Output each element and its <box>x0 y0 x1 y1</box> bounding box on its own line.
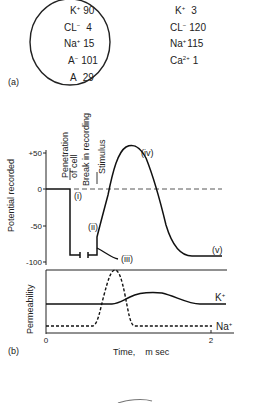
k-permeability-curve <box>46 292 226 304</box>
inside-ion-a: A29 <box>70 72 94 83</box>
annotation-of-cell: of cell <box>69 154 79 178</box>
svg-text:+50: +50 <box>28 149 42 158</box>
svg-text:(iv): (iv) <box>141 148 154 158</box>
svg-text:-100: -100 <box>26 258 43 267</box>
svg-text:0: 0 <box>38 185 43 194</box>
outside-ion-cl: CL−120 <box>170 22 206 33</box>
y-axis-label-potential: Potential recorded <box>6 159 16 232</box>
x-axis-label: Time, m sec <box>113 347 170 357</box>
outside-ion-list: K+3 CL−120 Na+115 Ca2+1 <box>170 5 206 66</box>
outside-ion-na: Na+115 <box>170 38 204 49</box>
annotation-break: Break in recording <box>81 113 91 186</box>
inside-ion-cl: CL−4 <box>64 22 92 33</box>
y-ticks: +50 0 -50 -100 <box>26 149 46 267</box>
figure: K+90 CL−4 Na+15 A−101 A29 K+3 CL−120 Na+… <box>0 0 270 403</box>
svg-text:(ii): (ii) <box>88 222 98 232</box>
panel-b-label: (b) <box>8 346 19 356</box>
outside-ion-ca: Ca2+1 <box>170 55 199 66</box>
inside-ion-list: K+90 CL−4 Na+15 A−101 A29 <box>64 5 98 83</box>
x-ticks: 0 2 <box>44 330 214 345</box>
svg-text:-50: -50 <box>30 222 42 231</box>
k-curve-label: K+ <box>215 292 226 303</box>
inside-ion-a-minus: A−101 <box>68 55 98 66</box>
inside-ion-na: Na+15 <box>64 38 95 49</box>
svg-text:0: 0 <box>44 336 49 345</box>
y-axis-label-permeability: Permeability <box>25 284 35 334</box>
svg-text:2: 2 <box>209 336 214 345</box>
panel-a-label: (a) <box>8 77 19 87</box>
outside-ion-k: K+3 <box>175 5 197 16</box>
cropped-figure-fragment <box>118 400 152 403</box>
svg-text:(iii): (iii) <box>121 254 133 264</box>
annotation-stimulus: Stimulus <box>97 139 107 174</box>
potential-trace-iii <box>97 248 118 259</box>
svg-text:(v): (v) <box>212 245 223 255</box>
na-curve-label: Na+ <box>216 321 233 332</box>
svg-text:(i): (i) <box>74 191 82 201</box>
inside-ion-k: K+90 <box>70 5 95 16</box>
